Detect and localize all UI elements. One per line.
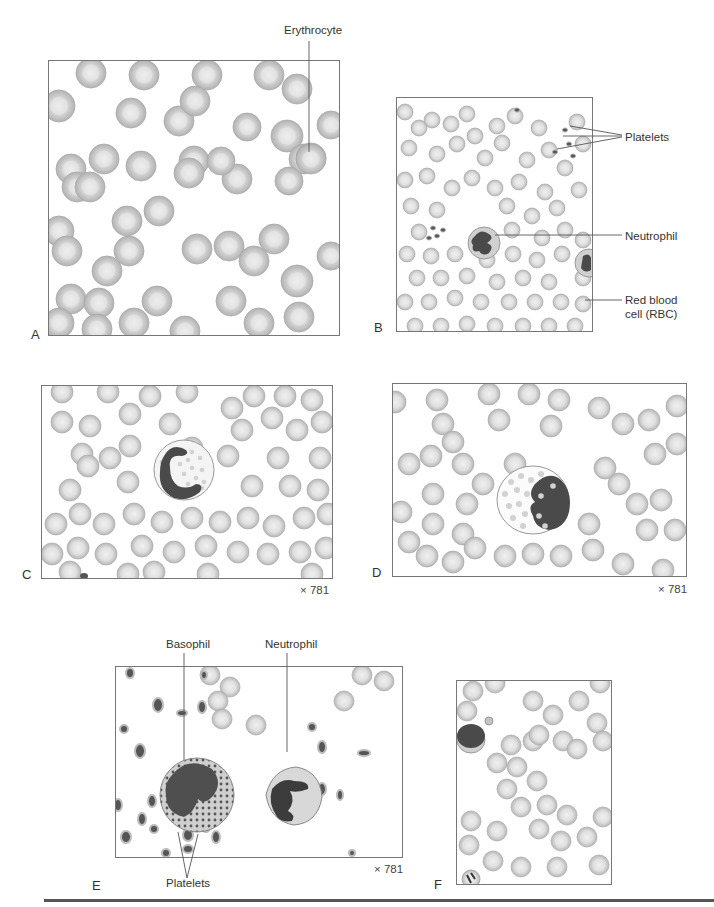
panel-letter-a: A	[31, 327, 40, 342]
panel-letter-f: F	[434, 877, 442, 892]
magnification-d: × 781	[658, 583, 687, 595]
nucleated-cell-field	[457, 681, 612, 885]
panel-d-basophil	[392, 383, 687, 577]
eosinophil-field	[42, 386, 333, 579]
figure-bottom-rule	[44, 899, 714, 902]
panel-b-blood-smear	[396, 97, 593, 332]
rbc-neutrophil-platelet-field	[397, 98, 593, 332]
panel-a-erythrocytes	[48, 60, 340, 336]
panel-letter-c: C	[22, 567, 31, 582]
label-rbc-line2: cell (RBC)	[625, 307, 677, 321]
erythrocyte-field	[49, 61, 340, 336]
panel-c-eosinophil	[41, 385, 333, 579]
label-platelets-b: Platelets	[625, 130, 669, 144]
panel-e-basophil-neutrophil	[115, 666, 403, 858]
label-neutrophil-b: Neutrophil	[625, 229, 677, 243]
panel-letter-d: D	[372, 565, 381, 580]
panel-f-nucleated-cell	[456, 680, 612, 885]
basophil-field	[393, 384, 687, 577]
label-rbc-line1: Red blood	[625, 293, 677, 307]
label-basophil-e: Basophil	[166, 637, 210, 651]
magnification-c: × 781	[300, 584, 329, 596]
label-erythrocyte: Erythrocyte	[284, 23, 342, 37]
label-neutrophil-e: Neutrophil	[265, 637, 317, 651]
panel-letter-e: E	[92, 878, 101, 893]
basophil-neutrophil-field	[116, 667, 403, 858]
magnification-e: × 781	[374, 863, 403, 875]
panel-letter-b: B	[374, 320, 383, 335]
label-platelets-e: Platelets	[166, 876, 210, 890]
